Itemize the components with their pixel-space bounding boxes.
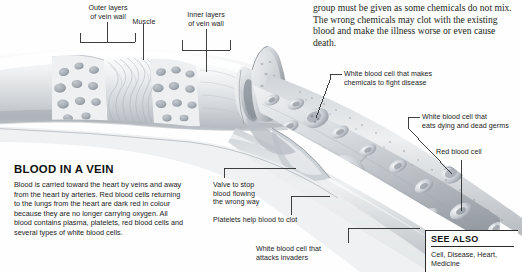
vein-outer-layer-porous-2 <box>150 59 200 127</box>
see-also-title: SEE ALSO <box>431 234 514 247</box>
label-muscle: Muscle <box>118 18 170 27</box>
label-wbc-chemicals: White blood cell that makes chemicals to… <box>344 70 516 87</box>
see-also-items: Cell, Disease, Heart, Medicine <box>431 250 514 268</box>
label-red-blood-cell: Red blood cell <box>436 148 516 157</box>
see-also-box: SEE ALSO Cell, Disease, Heart, Medicine <box>425 230 518 272</box>
figure-title: BLOOD IN A VEIN <box>14 163 186 175</box>
label-wbc-eats-germs: White blood cell that eats dying and dea… <box>422 113 522 130</box>
vein-muscle-band <box>104 56 156 126</box>
label-platelets: Platelets help blood to clot <box>213 216 343 225</box>
figure-caption-block: BLOOD IN A VEIN Blood is carried toward … <box>14 163 186 237</box>
label-wbc-attacks: White blood cell that attacks invaders <box>256 245 376 262</box>
figure-canvas: Outer layers of vein wall Muscle Inner l… <box>0 0 522 272</box>
label-valve: Valve to stop blood flowing the wrong wa… <box>213 181 291 207</box>
vein-outer-layer-porous-1 <box>52 55 108 125</box>
label-inner-layers: Inner layers of vein wall <box>166 11 246 28</box>
figure-body-text: Blood is carried toward the heart by vei… <box>14 180 186 237</box>
intro-paragraph: group must be given as some chemicals do… <box>313 2 518 48</box>
